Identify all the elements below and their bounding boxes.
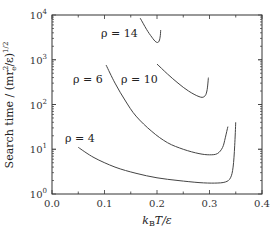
y-tick-label: 102 [30,98,47,111]
curve-4 [78,122,235,183]
curves [78,18,235,183]
curve-10 [157,64,208,97]
y-axis-title: Search time / (mr2e/ε)1/2 [2,42,18,169]
plot-frame [52,15,262,194]
curve-label-rho-6: ρ = 6 [73,73,103,86]
axis-ticks [52,15,262,194]
y-tick-label: 104 [30,8,48,21]
curve-label-rho-14: ρ = 14 [101,27,138,40]
y-tick-labels: 100101102103104 [30,8,48,200]
x-tick-label: 0.3 [202,198,218,209]
search-time-chart: 100101102103104 0.00.10.20.30.4 ρ = 14 ρ… [0,0,279,232]
x-tick-label: 0.2 [149,198,165,209]
x-tick-label: 0.1 [97,198,113,209]
curve-label-rho-4: ρ = 4 [65,132,95,145]
x-tick-label: 0.4 [254,198,270,209]
y-tick-label: 103 [30,53,47,66]
x-tick-label: 0.0 [44,198,60,209]
x-axis-title: kBT/ε [142,214,172,228]
x-tick-labels: 0.00.10.20.30.4 [44,198,270,209]
curve-14 [140,18,161,42]
curve-label-rho-10: ρ = 10 [121,73,158,86]
y-tick-label: 101 [30,142,47,155]
